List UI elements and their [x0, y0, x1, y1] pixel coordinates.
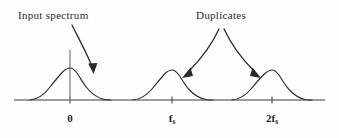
input-spectrum-label: Input spectrum: [18, 9, 89, 21]
duplicates-right-arrow-shaft: [224, 29, 254, 71]
axis-label-zero: 0: [60, 112, 80, 124]
duplicates-label: Duplicates: [196, 9, 246, 21]
second-duplicate-curve: [232, 70, 312, 100]
duplicates-left-arrow-shaft: [189, 29, 219, 71]
input-spectrum-arrow-shaft: [72, 25, 92, 66]
axis-label-2fs-main: 2f: [266, 112, 275, 124]
axis-label-fs: fs: [162, 112, 182, 124]
first-duplicate-curve: [133, 70, 213, 100]
axis-label-fs-subscript: s: [172, 117, 175, 126]
input-spectrum-arrow-head: [88, 63, 97, 74]
spectrum-diagram: Input spectrum Duplicates 0 fs 2fs: [0, 0, 339, 138]
axis-label-2fs-subscript: s: [275, 117, 278, 126]
axis-label-2fs: 2fs: [260, 112, 284, 124]
